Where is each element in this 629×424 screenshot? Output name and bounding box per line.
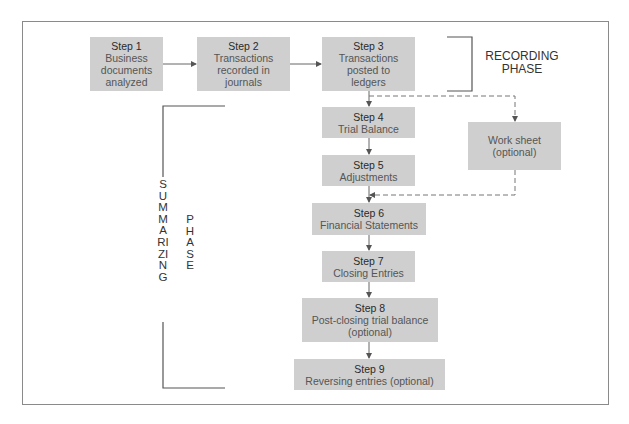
- step-desc: recorded in: [217, 64, 270, 76]
- phase-word: PHASE: [184, 214, 196, 272]
- recording-phase-bracket: [447, 37, 472, 91]
- step1-box: Step 1 Business documents analyzed: [90, 37, 163, 91]
- worksheet-label: Work sheet: [488, 134, 541, 146]
- step-number: Step 3: [353, 40, 383, 52]
- step-desc: ledgers: [351, 76, 385, 88]
- recording-phase-label: RECORDING PHASE: [482, 50, 562, 76]
- step-desc: posted to: [347, 64, 390, 76]
- step-number: Step 1: [111, 40, 141, 52]
- summarizing-word: SUMMARIZING: [157, 179, 169, 283]
- step-desc: Post-closing trial balance: [312, 314, 429, 326]
- step-desc: Business: [105, 52, 148, 64]
- step-number: Step 4: [353, 111, 383, 123]
- step-desc: Reversing entries (optional): [305, 375, 433, 387]
- step-number: Step 7: [353, 255, 383, 267]
- step-desc: analyzed: [105, 76, 147, 88]
- recording-phase-line2: PHASE: [482, 63, 562, 76]
- step-number: Step 2: [228, 40, 258, 52]
- step9-box: Step 9 Reversing entries (optional): [294, 359, 445, 390]
- step-desc: Financial Statements: [320, 219, 418, 231]
- step6-box: Step 6 Financial Statements: [312, 203, 426, 235]
- step-number: Step 6: [354, 207, 384, 219]
- step7-box: Step 7 Closing Entries: [322, 251, 415, 282]
- step-desc: journals: [225, 76, 262, 88]
- step3-box: Step 3 Transactions posted to ledgers: [322, 37, 415, 91]
- summarizing-bracket-top: [163, 106, 225, 177]
- step-number: Step 8: [355, 302, 385, 314]
- step-desc: Transactions: [339, 52, 399, 64]
- step-desc: Transactions: [214, 52, 274, 64]
- step8-box: Step 8 Post-closing trial balance (optio…: [302, 298, 438, 342]
- step4-box: Step 4 Trial Balance: [322, 107, 415, 138]
- step5-box: Step 5 Adjustments: [322, 155, 415, 186]
- step-number: Step 5: [353, 159, 383, 171]
- worksheet-label: (optional): [493, 146, 537, 158]
- worksheet-box: Work sheet (optional): [468, 122, 561, 170]
- step-desc: Trial Balance: [338, 123, 399, 135]
- step-desc: Adjustments: [340, 171, 398, 183]
- step-desc: documents: [101, 64, 152, 76]
- summarizing-bracket-bottom: [163, 322, 225, 388]
- step-desc: (optional): [348, 326, 392, 338]
- step-number: Step 9: [354, 363, 384, 375]
- step-desc: Closing Entries: [333, 267, 404, 279]
- step2-box: Step 2 Transactions recorded in journals: [197, 37, 290, 91]
